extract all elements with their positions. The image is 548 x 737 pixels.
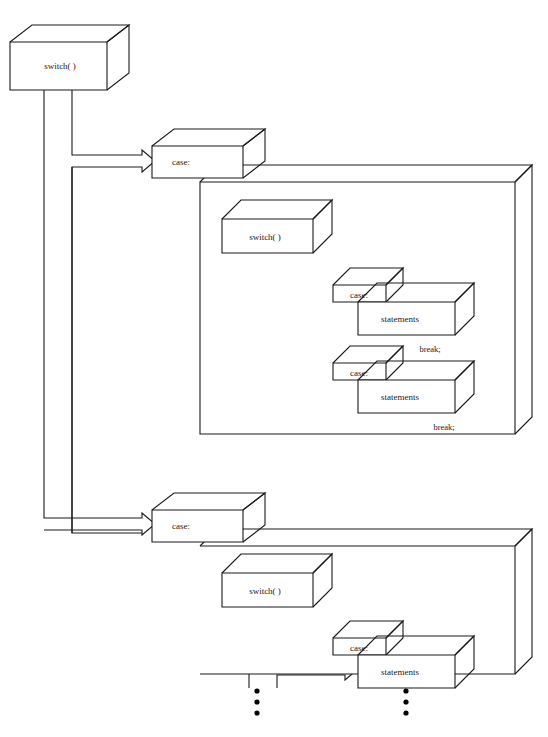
inner-switch-1-label: switch( ) (249, 232, 281, 242)
break-annotation-1: break; (419, 344, 440, 354)
case-2-container-top (200, 529, 532, 546)
nested-switch-diagram: switch( ) case: switch( ) case: statemen… (0, 0, 548, 737)
connector-outer-switch-to-case-1 (72, 90, 155, 533)
ellipsis-dot (254, 710, 259, 715)
case-2-right-face (243, 493, 265, 542)
inner1-statements-a-label: statements (381, 314, 419, 324)
case-2-label: case: (172, 521, 190, 531)
case-2-box[interactable]: case: (152, 493, 265, 542)
break-annotation-2: break; (433, 422, 454, 432)
case-2-container-right (515, 529, 532, 674)
case-2-top-face (152, 493, 265, 510)
case-2-front-face (152, 510, 243, 542)
connector-case-1-tail (72, 167, 142, 533)
outer-switch-label: switch( ) (44, 61, 76, 71)
ellipsis-dot (254, 699, 259, 704)
outer-switch-right-face (107, 25, 129, 90)
ellipsis-dot (403, 710, 408, 715)
case-1-top-face (152, 129, 265, 146)
inner-switch-2-label: switch( ) (249, 586, 281, 596)
case-1-container-top (200, 165, 532, 182)
outer-switch-box[interactable]: switch( ) (10, 25, 129, 90)
case-1-label: case: (172, 157, 190, 167)
inner1-statements-b-label: statements (381, 392, 419, 402)
ellipsis-dot (403, 688, 408, 693)
ellipsis-right-statements (403, 688, 408, 715)
ellipsis-dot (403, 699, 408, 704)
inner2-statements-a-label: statements (381, 667, 419, 677)
ellipsis-dot (254, 688, 259, 693)
case-1-box[interactable]: case: (152, 129, 265, 178)
connector-outer-switch-to-case-2 (44, 90, 155, 535)
ellipsis-left-switch (254, 688, 259, 715)
case-1-container-right (515, 165, 532, 434)
case-1-right-face (243, 129, 265, 178)
case-1-front-face (152, 146, 243, 178)
